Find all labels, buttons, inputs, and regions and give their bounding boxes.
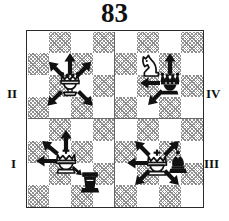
square bbox=[71, 141, 93, 163]
square bbox=[159, 97, 181, 119]
square bbox=[49, 97, 71, 119]
square bbox=[137, 185, 159, 207]
square bbox=[181, 75, 203, 97]
square bbox=[93, 185, 115, 207]
square bbox=[71, 32, 93, 54]
square bbox=[137, 32, 159, 54]
square bbox=[137, 141, 159, 163]
square bbox=[49, 119, 71, 141]
square bbox=[159, 185, 181, 207]
chess-board bbox=[26, 30, 204, 208]
square bbox=[137, 53, 159, 75]
quadrant-divider-horizontal bbox=[28, 118, 203, 119]
square bbox=[93, 32, 115, 54]
square bbox=[115, 141, 137, 163]
square bbox=[181, 119, 203, 141]
square bbox=[28, 163, 50, 185]
quadrant-label-I: I bbox=[11, 157, 16, 171]
square bbox=[159, 75, 181, 97]
square bbox=[49, 32, 71, 54]
square bbox=[93, 119, 115, 141]
quadrant-label-II: II bbox=[7, 87, 17, 101]
square bbox=[28, 141, 50, 163]
square bbox=[28, 185, 50, 207]
square bbox=[28, 119, 50, 141]
square bbox=[159, 163, 181, 185]
square bbox=[115, 119, 137, 141]
square bbox=[93, 163, 115, 185]
square bbox=[181, 32, 203, 54]
square bbox=[137, 163, 159, 185]
square bbox=[71, 163, 93, 185]
square bbox=[159, 141, 181, 163]
square bbox=[115, 163, 137, 185]
square bbox=[71, 97, 93, 119]
square bbox=[49, 141, 71, 163]
square bbox=[93, 53, 115, 75]
square bbox=[115, 75, 137, 97]
quadrant-label-IV: IV bbox=[206, 87, 220, 101]
square bbox=[181, 141, 203, 163]
square bbox=[71, 119, 93, 141]
square bbox=[137, 75, 159, 97]
square bbox=[159, 32, 181, 54]
square bbox=[137, 97, 159, 119]
square bbox=[49, 185, 71, 207]
square bbox=[28, 32, 50, 54]
square bbox=[181, 97, 203, 119]
square bbox=[49, 75, 71, 97]
square bbox=[28, 53, 50, 75]
square bbox=[115, 97, 137, 119]
page-title: 83 bbox=[0, 0, 229, 28]
square bbox=[137, 119, 159, 141]
square bbox=[71, 53, 93, 75]
square bbox=[159, 119, 181, 141]
square bbox=[28, 75, 50, 97]
square bbox=[181, 53, 203, 75]
square bbox=[181, 185, 203, 207]
square bbox=[115, 32, 137, 54]
square bbox=[49, 53, 71, 75]
square bbox=[115, 185, 137, 207]
square bbox=[71, 75, 93, 97]
square bbox=[93, 141, 115, 163]
quadrant-label-III: III bbox=[204, 157, 219, 171]
square bbox=[71, 185, 93, 207]
square bbox=[93, 97, 115, 119]
square bbox=[49, 163, 71, 185]
square bbox=[93, 75, 115, 97]
square bbox=[115, 53, 137, 75]
square bbox=[28, 97, 50, 119]
square bbox=[181, 163, 203, 185]
square bbox=[159, 53, 181, 75]
